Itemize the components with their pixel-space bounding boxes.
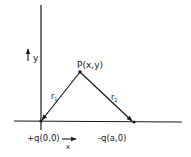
charge-diagram: y x P(x,y) r1 r2 +q(0,0) -q(a,0) — [0, 0, 191, 157]
field-point-label: P(x,y) — [77, 60, 103, 70]
r2-vector — [80, 72, 132, 121]
negative-charge-dot — [132, 120, 135, 123]
r2-label: r2 — [111, 93, 117, 103]
x-axis-label: x — [66, 143, 70, 151]
r1-vector — [42, 72, 80, 120]
field-point-dot — [78, 70, 82, 74]
origin-dot — [39, 119, 42, 122]
r1-label: r1 — [51, 92, 57, 102]
y-axis-label: y — [33, 53, 39, 63]
x-axis — [14, 121, 182, 122]
negative-charge-label: -q(a,0) — [98, 133, 126, 143]
positive-charge-label: +q(0,0) — [27, 133, 60, 143]
